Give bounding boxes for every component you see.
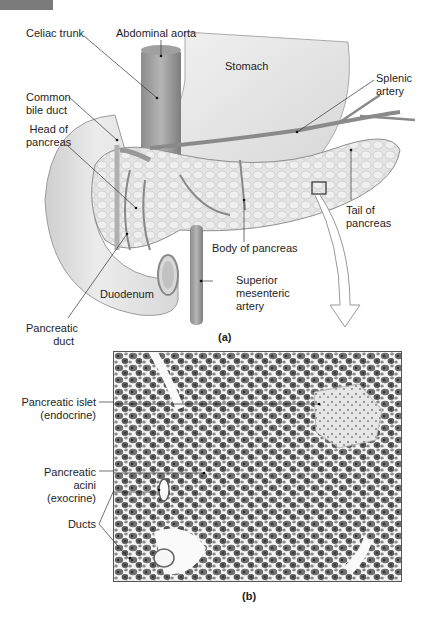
label-pancreatic-acini-3: (exocrine) xyxy=(10,492,96,505)
label-pancreatic-acini-1: Pancreatic xyxy=(10,466,96,479)
label-pancreatic-islet-1: Pancreatic islet xyxy=(10,396,96,409)
panel-b-label: (b) xyxy=(242,590,256,602)
label-pancreatic-islet-2: (endocrine) xyxy=(10,409,96,422)
label-pancreatic-acini-2: acini xyxy=(10,479,96,492)
label-ducts: Ducts xyxy=(10,518,96,531)
